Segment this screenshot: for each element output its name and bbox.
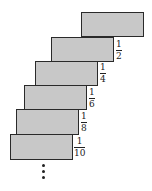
- block-2: [51, 37, 114, 62]
- overhang-label-1-4: 1 4: [100, 63, 106, 84]
- block-6: [10, 134, 73, 160]
- block-1: [81, 12, 144, 37]
- ellipsis-dot: [42, 170, 45, 173]
- overhang-label-1-2: 1 2: [116, 40, 122, 61]
- ellipsis-dot: [42, 176, 45, 179]
- overhang-label-1-6: 1 6: [89, 88, 95, 109]
- block-3: [35, 61, 98, 86]
- overhang-label-1-10: 1 10: [74, 137, 85, 158]
- block-4: [24, 85, 87, 110]
- block-5: [16, 109, 79, 135]
- overhang-label-1-8: 1 8: [81, 112, 87, 133]
- ellipsis-dot: [42, 164, 45, 167]
